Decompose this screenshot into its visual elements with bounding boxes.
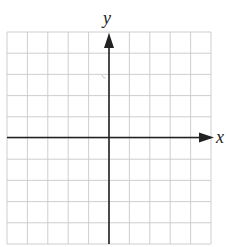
stray-mark [102, 75, 106, 78]
x-axis-label: x [215, 127, 224, 147]
coordinate-grid: x y [0, 0, 226, 247]
y-axis-label: y [101, 8, 111, 28]
y-axis [104, 33, 114, 244]
x-axis [7, 133, 214, 143]
y-axis-arrow-icon [104, 33, 114, 48]
x-axis-arrow-icon [199, 133, 214, 143]
